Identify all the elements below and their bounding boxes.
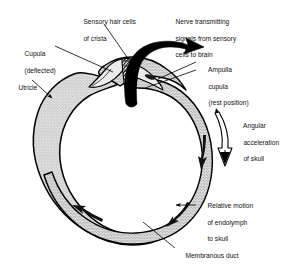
label-sensory-hair-cells-line1: Sensory hair cells	[83, 18, 135, 25]
label-sensory-hair-cells: Sensory hair cells of crista	[76, 10, 136, 51]
vestibular-ampulla-diagram: Sensory hair cells of crista Nerve trans…	[0, 0, 281, 272]
label-utricle: Utricle	[11, 76, 37, 101]
label-cupula-deflected-line1: Cupula	[24, 50, 45, 57]
label-membranous-duct: Membranous duct	[178, 244, 239, 269]
label-relative-motion: Relative motion of endolymph to skull	[200, 194, 253, 251]
label-angular-line3: of skull	[243, 155, 264, 162]
label-utricle-line1: Utricle	[18, 84, 37, 91]
label-ampulla-line3: (rest position)	[208, 99, 248, 106]
label-nerve-line3: cells to brain	[175, 51, 212, 58]
label-sensory-hair-cells-line2: of crista	[83, 35, 106, 42]
label-cupula-deflected-line2: (deflected)	[24, 67, 55, 74]
utricle-chamber	[33, 73, 181, 245]
label-membranous-duct-line1: Membranous duct	[185, 252, 238, 259]
label-angular-line2: acceleration	[243, 139, 279, 146]
label-nerve-line2: signals from sensory	[175, 35, 236, 42]
label-relative-motion-line1: Relative motion	[207, 202, 253, 209]
label-angular-acceleration: Angular acceleration of skull	[236, 114, 279, 171]
label-ampulla-line2: cupula	[208, 83, 228, 90]
label-ampulla-line1: Ampulla	[208, 66, 232, 73]
label-relative-motion-line3: to skull	[207, 235, 228, 242]
label-nerve-line1: Nerve transmitting	[175, 18, 229, 25]
label-relative-motion-line2: of endolymph	[207, 219, 247, 226]
label-angular-line1: Angular	[243, 122, 266, 129]
label-ampulla-cupula: Ampulla cupula (rest position)	[201, 58, 249, 115]
angular-acceleration-arrow	[215, 108, 232, 166]
